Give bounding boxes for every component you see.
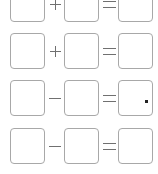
operand1-box[interactable] [10,80,45,116]
equals-icon [103,48,116,55]
operand2-box[interactable] [64,33,99,69]
result-box[interactable] [118,80,153,116]
dot-mark [145,100,148,103]
result-box[interactable] [118,0,153,22]
plus-sign: + [46,0,64,22]
minus-icon [49,146,61,147]
operand2-box[interactable] [64,128,99,164]
plus-icon [50,46,61,57]
equals-sign: = [100,0,118,22]
minus-sign: − [46,80,64,116]
operand1-box[interactable] [10,0,45,22]
equation-row-4: − = [10,128,155,165]
plus-icon [50,0,61,10]
minus-icon [49,98,61,99]
equation-row-2: + = [10,33,155,70]
operand1-box[interactable] [10,33,45,69]
operand2-box[interactable] [64,0,99,22]
equation-row-3: − = [10,80,155,117]
equals-icon [103,1,116,8]
equals-icon [103,143,116,150]
result-box[interactable] [118,33,153,69]
equals-sign: = [100,128,118,164]
operand1-box[interactable] [10,128,45,164]
minus-sign: − [46,128,64,164]
equation-row-1: + = [10,0,155,23]
equals-sign: = [100,33,118,69]
result-box[interactable] [118,128,153,164]
equals-icon [103,95,116,102]
equals-sign: = [100,80,118,116]
operand2-box[interactable] [64,80,99,116]
math-worksheet: + = + = − = − = [0,0,158,174]
plus-sign: + [46,33,64,69]
